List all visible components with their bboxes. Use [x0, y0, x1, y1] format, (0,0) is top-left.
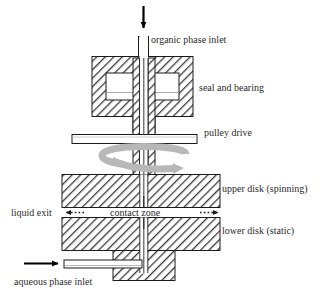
aqueous-inlet-tube [64, 260, 142, 268]
pulley-drive-disk [72, 135, 197, 144]
spinning-disk-contactor-diagram: organic phase inlet seal and bearing pul… [0, 0, 329, 297]
label-upper-disk-spinning: upper disk (spinning) [222, 184, 308, 194]
label-seal-and-bearing: seal and bearing [199, 83, 264, 93]
label-liquid-exit: liquid exit [11, 208, 52, 218]
lower-disk-block [62, 218, 220, 281]
upper-disk-block [62, 175, 220, 208]
label-pulley-drive: pulley drive [204, 128, 252, 138]
label-organic-phase-inlet: organic phase inlet [151, 35, 226, 45]
label-lower-disk-static: lower disk (static) [222, 226, 294, 236]
label-contact-zone: contact zone [110, 208, 160, 218]
label-aqueous-phase-inlet: aqueous phase inlet [14, 277, 92, 287]
